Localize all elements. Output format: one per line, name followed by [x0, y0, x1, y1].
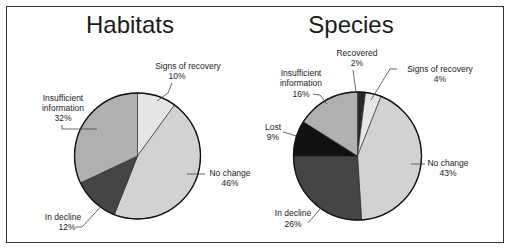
habitats-label-insufficient-2: information: [42, 103, 84, 113]
habitats-label-nochange-pct: 46%: [221, 178, 238, 188]
species-label-decline: In decline: [275, 208, 312, 218]
species-label-lost-pct: 9%: [267, 132, 280, 142]
habitats-label-decline-pct: 12%: [58, 222, 75, 232]
species-label-recovered-pct: 2%: [351, 58, 364, 68]
species-label-insufficient-pct: 16%: [292, 89, 309, 99]
species-label-recovered: Recovered: [336, 48, 377, 58]
species-chart: Species Recovered 2% Signs of recovery 4…: [265, 11, 474, 229]
species-pie: [293, 92, 421, 220]
habitats-chart: Habitats Signs of recovery 10% Insuffici…: [42, 11, 251, 232]
habitats-label-signs: Signs of recovery: [155, 61, 221, 71]
habitats-pie: [75, 93, 201, 219]
species-label-signs: Signs of recovery: [407, 64, 473, 74]
species-label-insufficient-2: information: [280, 78, 322, 88]
species-label-nochange: No change: [427, 158, 468, 168]
species-label-nochange-pct: 43%: [439, 168, 456, 178]
species-title: Species: [308, 11, 393, 38]
habitats-title: Habitats: [86, 11, 174, 38]
species-leader-lost: [283, 132, 296, 136]
species-label-signs-pct: 4%: [434, 74, 447, 84]
habitats-label-nochange: No change: [209, 168, 250, 178]
species-leader-recovered: [353, 70, 356, 92]
habitats-label-insufficient-pct: 32%: [54, 113, 71, 123]
habitats-label-decline: In decline: [45, 212, 82, 222]
habitats-label-signs-pct: 10%: [168, 71, 185, 81]
habitats-label-insufficient-1: Insufficient: [43, 93, 84, 103]
species-label-insufficient-1: Insufficient: [281, 68, 322, 78]
species-label-lost: Lost: [265, 122, 282, 132]
charts-canvas: Habitats Signs of recovery 10% Insuffici…: [0, 0, 509, 252]
species-label-decline-pct: 26%: [284, 219, 301, 229]
